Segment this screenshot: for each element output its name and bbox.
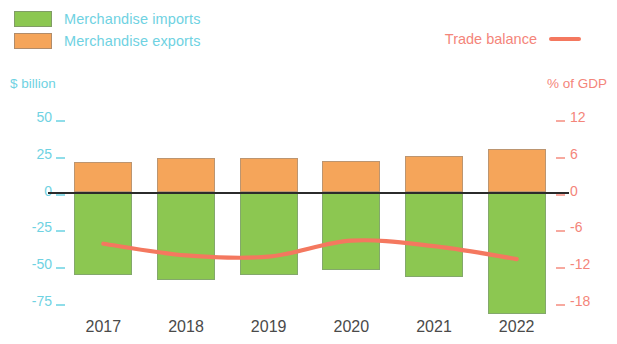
x-axis-label: 2017 bbox=[63, 318, 143, 336]
balance-line-svg bbox=[0, 0, 617, 344]
x-axis-label: 2018 bbox=[146, 318, 226, 336]
plot-area: 50250-25-50-75 1260-6-12-18 201720182019… bbox=[0, 0, 617, 344]
x-axis-label: 2020 bbox=[311, 318, 391, 336]
x-axis-label: 2021 bbox=[394, 318, 474, 336]
balance-line-layer bbox=[0, 0, 617, 344]
trade-balance-line bbox=[103, 240, 516, 259]
trade-chart: Merchandise imports Merchandise exports … bbox=[0, 0, 617, 344]
x-axis-label: 2022 bbox=[477, 318, 557, 336]
x-axis-label: 2019 bbox=[229, 318, 309, 336]
